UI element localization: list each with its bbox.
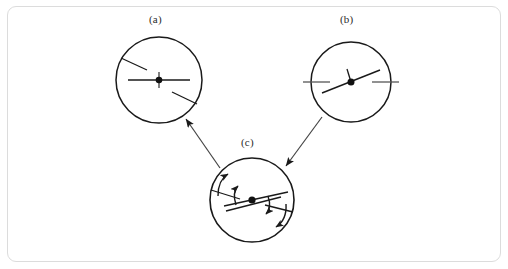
connector-arrow-c-to-a — [186, 119, 220, 168]
panel-a-center-dot — [156, 77, 163, 84]
panel-a-upper-left-tick-icon — [121, 58, 147, 70]
panel-a-label: (a) — [149, 13, 162, 25]
panel-c-label: (c) — [241, 136, 254, 148]
panel-a-group — [116, 37, 202, 123]
panel-b-center-dot — [348, 79, 355, 86]
panel-b-label: (b) — [340, 13, 353, 25]
panel-c-precession-arrow-inner-left-icon — [234, 186, 238, 205]
figure-canvas — [0, 0, 508, 269]
panel-c-precession-arrow-outer-right-icon — [276, 204, 286, 227]
panel-a-lower-right-tick-icon — [172, 92, 197, 104]
panel-c-group — [210, 158, 294, 242]
connector-arrow-b-to-c — [286, 117, 322, 166]
panel-c-center-dot — [248, 196, 255, 203]
figure-root: (a) (b) (c) — [0, 0, 508, 269]
panel-b-group — [303, 42, 399, 122]
